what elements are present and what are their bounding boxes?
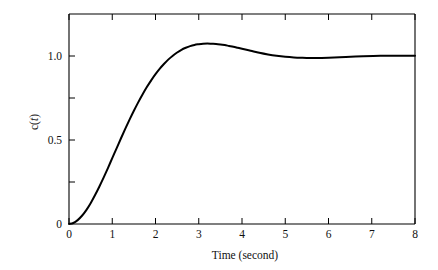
- y-tick-label: 1.0: [48, 50, 63, 62]
- x-axis-tick-labels: 012345678: [66, 228, 418, 240]
- y-axis-ticks: [69, 56, 75, 182]
- y-axis-title-pre: c(: [28, 121, 41, 130]
- x-tick-label: 6: [326, 228, 332, 240]
- x-tick-label: 3: [196, 228, 202, 240]
- x-tick-label: 2: [153, 228, 159, 240]
- y-tick-label: 0: [56, 218, 62, 230]
- response-curve: [69, 44, 415, 224]
- y-tick-label: 0.5: [48, 134, 63, 146]
- figure-container: 012345678 00.51.0 Time (second) c(t): [0, 0, 438, 270]
- x-tick-label: 7: [369, 228, 375, 240]
- x-tick-label: 8: [412, 228, 418, 240]
- y-axis-title: c(t): [28, 114, 41, 130]
- y-axis-title-group: c(t): [28, 114, 41, 130]
- plot-frame: [69, 14, 415, 224]
- x-axis-title: Time (second): [212, 249, 279, 262]
- step-response-chart: 012345678 00.51.0 Time (second) c(t): [0, 0, 438, 270]
- y-axis-title-post: ): [28, 114, 41, 118]
- x-tick-label: 4: [239, 228, 245, 240]
- x-tick-label: 1: [109, 228, 115, 240]
- x-axis-ticks: [69, 14, 415, 224]
- x-tick-label: 0: [66, 228, 72, 240]
- y-axis-tick-labels: 00.51.0: [48, 50, 63, 230]
- x-tick-label: 5: [282, 228, 288, 240]
